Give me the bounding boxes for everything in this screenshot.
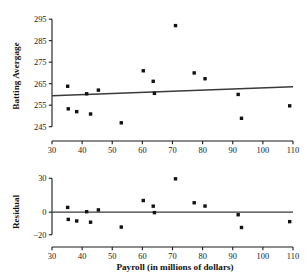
y-tick-label: 30 [38, 174, 46, 183]
y-axis-label-batting-average: Batting Avergage [11, 42, 21, 109]
top-panel-x-tick-labels: 30405060708090100110 [48, 146, 299, 155]
y-tick-label: 275 [34, 58, 47, 67]
data-point [203, 204, 206, 207]
y-tick-label: 295 [34, 15, 47, 24]
data-point [66, 206, 69, 209]
batting-average-scatter-panel: Batting Avergage 245255265275285295 3040… [11, 15, 299, 154]
data-point [288, 104, 291, 107]
bottom-panel-x-axis [52, 247, 293, 250]
x-tick-label: 50 [108, 146, 116, 155]
x-axis-label-payroll: Payroll (in millions of dollars) [116, 262, 233, 272]
y-axis-label-residual: Residual [11, 194, 21, 229]
data-point [203, 77, 206, 80]
residual-data-points [66, 177, 291, 229]
x-tick-label: 30 [48, 252, 56, 261]
data-point [85, 92, 88, 95]
bottom-panel-x-tick-labels: 30405060708090100110 [48, 252, 299, 261]
data-point [288, 220, 291, 223]
data-point [120, 225, 123, 228]
top-panel-x-axis [52, 141, 293, 144]
x-tick-label: 110 [287, 252, 299, 261]
residual-scatter-panel: Residual −20030 30405060708090100110 Pay… [11, 174, 299, 272]
x-tick-label: 60 [138, 146, 146, 155]
data-point [67, 107, 70, 110]
batting-average-data-points [66, 24, 291, 125]
data-point [174, 177, 177, 180]
data-point [97, 208, 100, 211]
data-point [67, 218, 70, 221]
x-tick-label: 60 [138, 252, 146, 261]
data-point [192, 71, 195, 74]
data-point [89, 112, 92, 115]
data-point [153, 92, 156, 95]
top-panel-y-axis [49, 19, 52, 127]
data-point [174, 24, 177, 27]
data-point [142, 199, 145, 202]
x-tick-label: 40 [78, 252, 86, 261]
data-point [66, 85, 69, 88]
top-panel-y-tick-labels: 245255265275285295 [34, 15, 47, 132]
x-tick-label: 90 [229, 146, 237, 155]
x-tick-label: 30 [48, 146, 56, 155]
data-point [89, 221, 92, 224]
x-tick-label: 80 [198, 146, 206, 155]
data-point [152, 80, 155, 83]
x-tick-label: 90 [229, 252, 237, 261]
data-point [120, 121, 123, 124]
statistics-figure: Batting Avergage 245255265275285295 3040… [0, 0, 308, 278]
y-tick-label: 0 [42, 208, 46, 217]
y-tick-label: 255 [34, 101, 47, 110]
x-tick-label: 110 [287, 146, 299, 155]
data-point [85, 210, 88, 213]
data-point [236, 93, 239, 96]
x-tick-label: 100 [257, 252, 270, 261]
data-point [75, 219, 78, 222]
data-point [75, 110, 78, 113]
data-point [97, 88, 100, 91]
bottom-panel-y-axis [49, 178, 52, 234]
y-tick-label: −20 [33, 231, 46, 240]
y-tick-label: 285 [34, 37, 47, 46]
data-point [142, 69, 145, 72]
data-point [152, 204, 155, 207]
data-point [240, 117, 243, 120]
x-tick-label: 70 [168, 146, 176, 155]
data-point [153, 211, 156, 214]
data-point [236, 213, 239, 216]
x-tick-label: 80 [198, 252, 206, 261]
x-tick-label: 40 [78, 146, 86, 155]
x-tick-label: 100 [257, 146, 270, 155]
x-tick-label: 50 [108, 252, 116, 261]
x-tick-label: 70 [168, 252, 176, 261]
data-point [240, 226, 243, 229]
data-point [192, 201, 195, 204]
y-tick-label: 265 [34, 80, 47, 89]
y-tick-label: 245 [34, 123, 47, 132]
bottom-panel-y-tick-labels: −20030 [33, 174, 46, 239]
